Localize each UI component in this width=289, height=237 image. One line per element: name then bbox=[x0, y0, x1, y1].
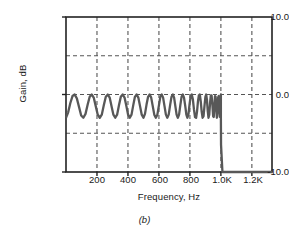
ytick-label-top: 10.0 bbox=[249, 11, 289, 22]
x-axis-title: Frequency, Hz bbox=[66, 191, 272, 202]
figure-caption: (b) bbox=[0, 214, 289, 225]
xtick-label-1p2K: 1.2K bbox=[233, 174, 273, 185]
figure-container: 10.0 0.0 -10.0 200 400 600 800 1.0K 1.2K… bbox=[0, 0, 289, 237]
y-axis-title: Gain, dB bbox=[17, 44, 28, 124]
ytick-label-mid: 0.0 bbox=[249, 89, 289, 100]
